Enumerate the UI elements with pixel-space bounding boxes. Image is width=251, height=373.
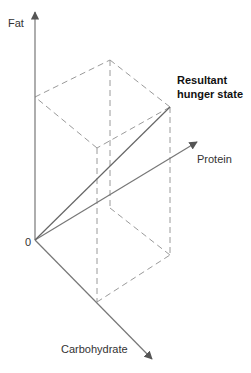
protein-axis [35, 142, 197, 240]
box-edge [97, 255, 170, 302]
nutrient-hunger-diagram [0, 0, 251, 373]
box-edge [110, 60, 170, 107]
protein-axis-label: Protein [197, 153, 232, 166]
fat-axis-label: Fat [8, 17, 24, 30]
box-edge [35, 60, 110, 97]
resultant-vector [35, 107, 170, 240]
box-edge [97, 107, 170, 148]
resultant-label-line1: Resultant [177, 74, 227, 87]
box-edge [110, 208, 170, 255]
dashed-cuboid [35, 60, 170, 302]
carbohydrate-axis-label: Carbohydrate [61, 343, 128, 356]
box-edge [35, 97, 97, 148]
origin-label: 0 [25, 236, 31, 249]
carbohydrate-axis [35, 240, 152, 359]
resultant-label-line2: hunger state [177, 88, 243, 101]
